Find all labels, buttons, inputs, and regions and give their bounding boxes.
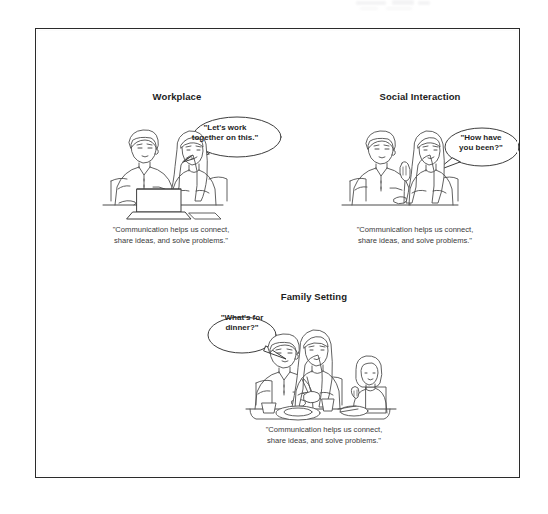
scan-artifact [392,0,414,5]
caption-social: "Communication helps us connect, share i… [330,225,500,246]
table-items [262,391,368,420]
panel-social: Social Interaction [328,91,528,102]
speech-text-social: "How have you been?" [448,133,514,153]
speech-text-family: "What's for dinner?" [208,313,276,333]
page-frame: Workplace [35,28,520,478]
scan-artifact [386,7,412,10]
panel-family: Family Setting [206,291,406,302]
illustration-social [336,115,521,227]
panel-title-social: Social Interaction [330,91,510,102]
speech-text-workplace: "Let's work together on this." [187,123,263,143]
laptop [127,189,191,219]
caption-family: "Communication helps us connect, share i… [234,425,414,446]
scan-artifact [418,1,430,5]
caption-workplace: "Communication helps us connect, share i… [91,225,251,246]
figure-child [351,356,387,413]
scan-artifact [356,1,386,5]
panel-workplace: Workplace [83,91,283,102]
panel-title-workplace: Workplace [97,91,257,102]
panel-title-family: Family Setting [224,291,404,302]
scan-artifact [360,7,378,10]
